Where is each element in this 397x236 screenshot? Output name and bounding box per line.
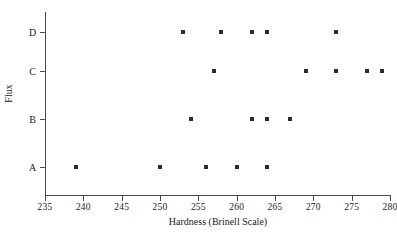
y-axis-line	[45, 12, 46, 196]
x-tick-label-250: 250	[153, 202, 168, 212]
data-point	[288, 117, 292, 121]
data-point	[250, 30, 254, 34]
data-point	[334, 30, 338, 34]
x-tick-265	[275, 196, 276, 201]
x-tick-260	[237, 196, 238, 201]
data-point	[365, 69, 369, 73]
y-tick-label-C: C	[27, 66, 38, 77]
data-point	[265, 165, 269, 169]
x-tick-255	[198, 196, 199, 201]
y-tick-D	[40, 32, 45, 33]
x-tick-label-270: 270	[306, 202, 321, 212]
data-point	[304, 69, 308, 73]
data-point	[265, 117, 269, 121]
data-point	[334, 69, 338, 73]
data-point	[212, 69, 216, 73]
x-tick-240	[83, 196, 84, 201]
x-axis-line	[45, 195, 391, 196]
x-tick-275	[352, 196, 353, 201]
y-tick-label-B: B	[27, 114, 38, 125]
x-tick-label-245: 245	[114, 202, 129, 212]
data-point	[74, 165, 78, 169]
x-tick-250	[160, 196, 161, 201]
y-axis-title: Flux	[3, 69, 14, 119]
data-point	[235, 165, 239, 169]
x-tick-235	[45, 196, 46, 201]
x-tick-280	[390, 196, 391, 201]
data-point	[380, 69, 384, 73]
x-tick-label-265: 265	[268, 202, 283, 212]
x-axis-title: Hardness (Brinell Scale)	[45, 216, 391, 227]
y-tick-A	[40, 167, 45, 168]
x-tick-label-260: 260	[229, 202, 244, 212]
dot-plot-chart: 235240245250255260265270275280 ABCD Hard…	[0, 0, 397, 236]
x-tick-270	[313, 196, 314, 201]
data-point	[219, 30, 223, 34]
x-tick-label-275: 275	[344, 202, 359, 212]
y-tick-label-A: A	[27, 162, 38, 173]
data-point	[158, 165, 162, 169]
data-point	[250, 117, 254, 121]
x-tick-245	[122, 196, 123, 201]
x-tick-label-280: 280	[383, 202, 397, 212]
x-tick-label-235: 235	[38, 202, 53, 212]
data-point	[265, 30, 269, 34]
data-point	[204, 165, 208, 169]
y-tick-C	[40, 71, 45, 72]
y-tick-B	[40, 119, 45, 120]
x-tick-label-255: 255	[191, 202, 206, 212]
y-tick-label-D: D	[27, 27, 38, 38]
x-tick-label-240: 240	[76, 202, 91, 212]
data-point	[181, 30, 185, 34]
data-point	[189, 117, 193, 121]
